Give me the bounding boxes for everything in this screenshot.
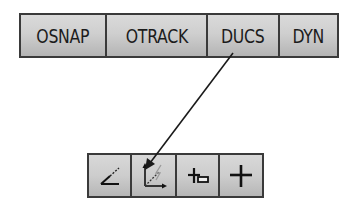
osnap-toggle-button[interactable]: OSNAP <box>21 15 105 56</box>
dynamic-ucs-icon <box>139 161 169 191</box>
polar-tracking-icon <box>97 163 123 189</box>
dyn-label: DYN <box>293 25 325 47</box>
dynamic-ucs-button[interactable] <box>132 155 175 196</box>
ducs-label: DUCS <box>221 25 264 47</box>
polar-tracking-button[interactable] <box>89 155 130 196</box>
status-bar: OSNAP OTRACK DUCS DYN <box>19 13 339 58</box>
crosshair-icon <box>228 163 254 189</box>
ducs-toggle-button[interactable]: DUCS <box>208 15 278 56</box>
otrack-toggle-button[interactable]: OTRACK <box>107 15 206 56</box>
object-snap-tracking-button[interactable] <box>177 155 218 196</box>
object-snap-tracking-icon <box>185 163 211 189</box>
crosshair-button[interactable] <box>220 155 262 196</box>
icon-toolbar <box>87 153 264 198</box>
otrack-label: OTRACK <box>125 25 187 47</box>
dyn-toggle-button[interactable]: DYN <box>280 15 337 56</box>
osnap-label: OSNAP <box>37 25 90 47</box>
